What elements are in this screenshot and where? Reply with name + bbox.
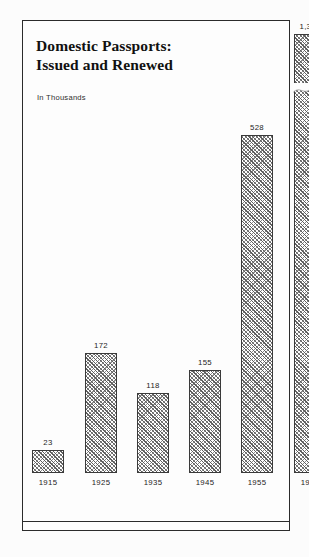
- bar-group-1935[interactable]: 118 1935: [137, 393, 169, 473]
- bar-category-label: 1945: [196, 478, 215, 487]
- bar-rect[interactable]: [137, 393, 169, 473]
- bar-value-label: 1,330: [299, 22, 309, 31]
- bar-group-1945[interactable]: 155 1945: [189, 370, 221, 473]
- bar-value-label: 155: [198, 358, 212, 367]
- baseline-axis: [23, 521, 289, 522]
- bar-category-label: 1925: [92, 478, 111, 487]
- bar-category-label: 1935: [144, 478, 163, 487]
- bar-category-label: 1965: [301, 478, 309, 487]
- bar-value-label: 528: [250, 123, 264, 132]
- bar-group-1925[interactable]: 172 1925: [85, 353, 117, 473]
- bar-rect[interactable]: [85, 353, 117, 473]
- bar-value-label: 23: [43, 438, 52, 447]
- bar-rect[interactable]: [32, 450, 64, 473]
- bar-category-label: 1955: [248, 478, 267, 487]
- bar-value-label: 118: [146, 381, 159, 390]
- bar-group-1915[interactable]: 23 1915: [32, 450, 64, 473]
- bar-value-label: 172: [94, 341, 108, 350]
- bar-group-1955[interactable]: 528 1955: [241, 135, 273, 473]
- bar-category-label: 1915: [39, 478, 58, 487]
- bar-rect[interactable]: [294, 34, 309, 473]
- chart-frame: Domestic Passports: Issued and Renewed I…: [22, 20, 290, 531]
- plot-area: 23 1915 172 1925 118 1935 155 1945 528 1…: [23, 21, 289, 530]
- bar-rect[interactable]: [189, 370, 221, 473]
- bar-group-1965[interactable]: 1,330 1965: [294, 34, 309, 473]
- bar-rect[interactable]: [241, 135, 273, 473]
- scale-break-icon: [293, 83, 309, 96]
